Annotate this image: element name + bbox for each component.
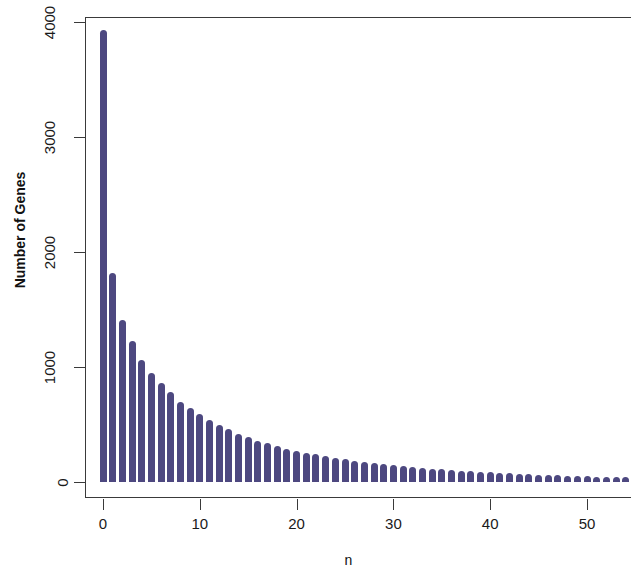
y-tick-mark (74, 137, 85, 138)
plot-area (86, 18, 631, 498)
bar (603, 477, 610, 482)
bar (206, 420, 213, 482)
bar (564, 476, 571, 482)
bar (496, 473, 503, 482)
bar (361, 462, 368, 482)
x-tick-label: 40 (482, 515, 499, 532)
y-tick-mark (74, 367, 85, 368)
x-tick-label: 10 (191, 515, 208, 532)
bar (613, 477, 620, 482)
bar (216, 425, 223, 483)
bar (429, 469, 436, 482)
bar (622, 477, 629, 482)
chart-figure: 01000200030004000 01020304050 Number of … (0, 0, 631, 571)
bar (148, 373, 155, 482)
bar (245, 437, 252, 482)
x-tick-label: 30 (385, 515, 402, 532)
x-axis-title-text: n (345, 552, 353, 568)
bar (554, 475, 561, 482)
bar (477, 472, 484, 482)
y-tick-mark (74, 22, 85, 23)
bar (438, 469, 445, 482)
bar (545, 475, 552, 482)
x-tick-mark (200, 499, 201, 510)
bar (254, 441, 261, 482)
bar (380, 464, 387, 482)
bar (516, 474, 523, 482)
bar (187, 408, 194, 482)
x-tick-mark (393, 499, 394, 510)
x-tick-label: 0 (99, 515, 107, 532)
bar (293, 451, 300, 482)
bar (409, 467, 416, 482)
y-tick-mark (74, 252, 85, 253)
bar (225, 429, 232, 482)
y-tick-label: 4000 (0, 0, 66, 52)
bar (167, 392, 174, 482)
y-tick-label: 2000 (0, 222, 66, 282)
y-tick-label: 1000 (0, 337, 66, 397)
bar (593, 477, 600, 482)
x-tick-label: 50 (579, 515, 596, 532)
bar (351, 461, 358, 482)
bar (458, 471, 465, 482)
y-tick-label: 3000 (0, 107, 66, 167)
bar (584, 476, 591, 482)
bar (371, 463, 378, 482)
bar (303, 453, 310, 482)
bar (467, 471, 474, 482)
bar (177, 402, 184, 483)
bar (129, 341, 136, 482)
bar (506, 473, 513, 482)
bar (487, 472, 494, 482)
x-tick-mark (297, 499, 298, 510)
x-tick-label: 20 (288, 515, 305, 532)
bar (138, 360, 145, 482)
bar (332, 458, 339, 482)
bar (390, 465, 397, 482)
x-tick-mark (490, 499, 491, 510)
bar (342, 459, 349, 482)
bar (574, 476, 581, 482)
bar (400, 466, 407, 482)
bar (535, 475, 542, 482)
x-tick-mark (587, 499, 588, 510)
bar (109, 273, 116, 482)
bar (100, 30, 107, 482)
x-axis-title: n (0, 552, 631, 568)
bar (274, 446, 281, 482)
y-tick-label: 0 (0, 452, 66, 512)
bar (283, 449, 290, 482)
bar (448, 470, 455, 482)
bar (158, 383, 165, 482)
x-tick-mark (103, 499, 104, 510)
bar (235, 434, 242, 482)
y-axis-title: Number of Genes (12, 155, 28, 305)
bar (264, 443, 271, 482)
bar (119, 320, 126, 482)
bar (419, 468, 426, 482)
bar (322, 456, 329, 482)
y-tick-mark (74, 482, 85, 483)
bar (196, 414, 203, 482)
bar (312, 454, 319, 482)
bar (525, 474, 532, 482)
